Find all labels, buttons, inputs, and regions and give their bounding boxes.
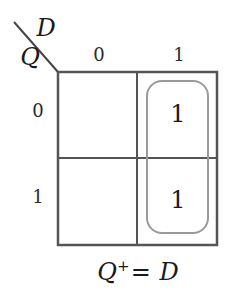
- equation-equals: =: [130, 258, 152, 286]
- column-variable-label: D: [36, 16, 55, 40]
- karnaugh-map: D Q 0 1 0 1 1 1 Q+= D: [0, 0, 226, 293]
- column-label-0: 0: [93, 46, 104, 64]
- cell-r1-c1: 1: [170, 188, 185, 212]
- equation-lhs: Q: [97, 258, 117, 286]
- minimized-equation: Q+= D: [97, 259, 178, 284]
- cell-r0-c1: 1: [170, 102, 185, 126]
- equation-rhs: D: [159, 258, 178, 286]
- row-label-0: 0: [32, 102, 43, 120]
- column-label-1: 1: [173, 46, 184, 64]
- row-label-1: 1: [32, 188, 43, 206]
- equation-superscript: +: [117, 257, 130, 275]
- row-variable-label: Q: [20, 45, 40, 69]
